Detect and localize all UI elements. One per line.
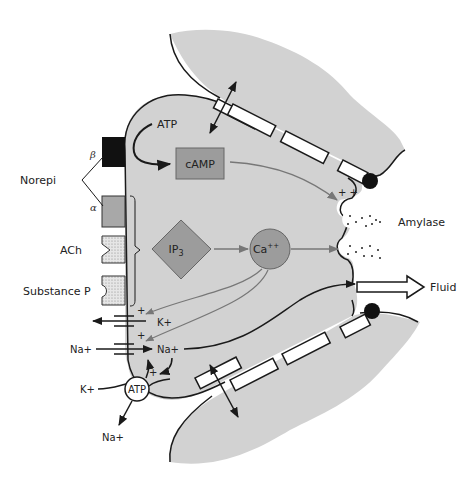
- fluid-arrow: [357, 276, 424, 298]
- secretory-granule-bottom: [342, 242, 381, 259]
- secretory-granule-top: [342, 212, 381, 228]
- svg-text:ATP: ATP: [128, 384, 146, 395]
- ach-receptor: [102, 236, 125, 263]
- pump-plus-sign: +: [149, 367, 157, 378]
- pump-na-efflux-arrow: [119, 401, 132, 425]
- k-channel-ion-label: K+: [157, 317, 172, 328]
- na-k-atpase-pump: ATP: [125, 377, 149, 401]
- beta-receptor: [102, 137, 125, 167]
- substance-p-receptor: [102, 276, 125, 305]
- svg-text:cAMP: cAMP: [185, 158, 215, 171]
- alpha-receptor: [102, 196, 125, 227]
- fluid-label: Fluid: [430, 281, 456, 294]
- acinar-cell-diagram: Norepi β α ACh Substance P ATP cAMP IP3 …: [0, 0, 464, 480]
- ach-label: ACh: [60, 244, 82, 257]
- plus-plus-label: + +: [338, 187, 358, 198]
- na-out-label: Na+: [70, 344, 92, 355]
- alpha-label: α: [90, 202, 97, 213]
- amylase-label: Amylase: [398, 216, 445, 229]
- camp-node: cAMP: [176, 148, 224, 179]
- k-pump-label: K+: [80, 384, 95, 395]
- plus-sign-na: +: [137, 330, 145, 341]
- beta-label: β: [89, 149, 96, 160]
- k-to-pump-line: [98, 384, 126, 389]
- atp-label: ATP: [157, 118, 177, 131]
- substance-p-label: Substance P: [23, 285, 91, 298]
- na-pump-out-label: Na+: [102, 432, 124, 443]
- k-plus-sign: +: [137, 305, 145, 316]
- na-in-label: Na+: [157, 344, 179, 355]
- norepi-label: Norepi: [20, 174, 56, 187]
- norepi-branch: [82, 157, 103, 206]
- ca-node: Ca++: [250, 229, 290, 269]
